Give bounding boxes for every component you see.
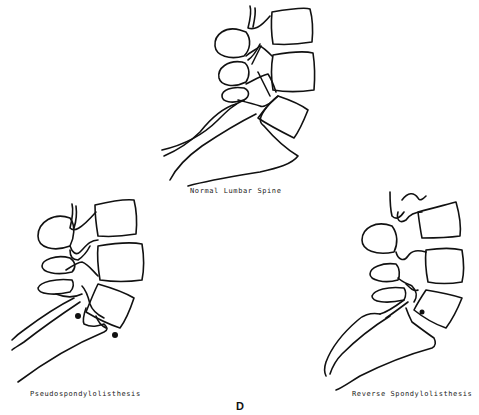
normal-spine-drawing xyxy=(160,0,320,190)
spinous-process-3 xyxy=(372,287,406,302)
spinous-process-2 xyxy=(42,257,75,274)
spinous-process-1 xyxy=(38,216,74,249)
vertebral-body-1 xyxy=(418,202,460,238)
caption-reverse-spondylolisthesis: Reverse Spondylolisthesis xyxy=(352,390,472,398)
spinous-process-2 xyxy=(219,62,249,86)
vertebral-body-3 xyxy=(86,284,134,328)
caption-normal-lumbar-spine: Normal Lumbar Spine xyxy=(190,187,281,195)
spine-illustration-normal xyxy=(160,0,320,190)
panel-letter: D xyxy=(236,400,244,412)
marker-dot-1 xyxy=(75,313,81,319)
vertebral-body-3 xyxy=(258,96,308,138)
marker-dot xyxy=(420,310,425,315)
spinous-process-2 xyxy=(370,264,399,282)
facet-1 xyxy=(248,6,270,29)
spinous-process-1 xyxy=(215,29,250,58)
vertebral-body-1 xyxy=(271,8,312,44)
spine-illustration-reverse xyxy=(300,190,479,390)
spinous-process-1 xyxy=(362,224,397,253)
vertebral-body-2 xyxy=(426,249,464,284)
spine-illustration-pseudo xyxy=(0,190,160,390)
vertebral-body-2 xyxy=(98,243,144,282)
marker-dot-2 xyxy=(112,332,118,338)
reverse-spondylolisthesis-drawing xyxy=(300,190,479,390)
spinous-process-3 xyxy=(38,279,73,294)
pseudospondylolisthesis-drawing xyxy=(0,190,160,390)
vertebral-body-1 xyxy=(95,200,137,237)
caption-pseudospondylolisthesis: Pseudospondylolisthesis xyxy=(30,390,141,398)
vertebral-body-3 xyxy=(414,290,462,328)
vertebral-body-2 xyxy=(272,52,315,92)
